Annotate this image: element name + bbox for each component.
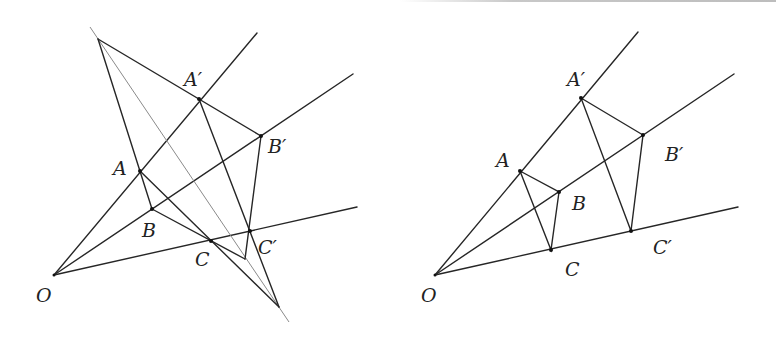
point-a-prime <box>579 96 583 100</box>
label-b: B <box>571 192 586 214</box>
ray-oa <box>435 32 638 275</box>
desargues-diagrams: O A B C A′ B′ C′ O A B C A′ B′ C′ <box>0 0 776 342</box>
left-figure: O A B C A′ B′ C′ <box>36 27 357 322</box>
label-o: O <box>421 284 437 306</box>
point-b-prime <box>259 134 263 138</box>
triangle-a2b2c2 <box>581 98 643 231</box>
label-b-prime: B′ <box>664 143 684 165</box>
line-a2c2-extended <box>199 99 279 307</box>
point-a-prime <box>197 97 201 101</box>
label-a: A <box>111 157 127 179</box>
right-figure: O A B C A′ B′ C′ <box>421 32 738 306</box>
line-ab-extended <box>98 39 152 209</box>
label-c-prime: C′ <box>653 236 673 258</box>
label-a: A <box>494 149 510 171</box>
label-b: B <box>141 219 156 241</box>
label-b-prime: B′ <box>267 135 287 157</box>
ray-ob <box>435 74 734 275</box>
ray-oc <box>435 207 738 275</box>
point-o <box>53 274 56 277</box>
point-c <box>549 248 553 252</box>
point-c <box>209 239 213 243</box>
point-c-prime <box>248 229 252 233</box>
point-b <box>150 207 154 211</box>
point-c-prime <box>629 229 633 233</box>
point-a <box>138 169 142 173</box>
label-o: O <box>36 284 52 306</box>
label-a-prime: A′ <box>182 68 203 90</box>
point-b <box>557 190 561 194</box>
point-b-prime <box>641 133 645 137</box>
triangle-abc <box>520 171 559 250</box>
label-a-prime: A′ <box>565 68 586 90</box>
label-c: C <box>195 248 210 270</box>
line-a2b2-extended <box>98 39 261 136</box>
label-c-prime: C′ <box>258 236 278 258</box>
label-c: C <box>565 258 580 280</box>
ray-ob <box>54 74 353 275</box>
point-o <box>434 274 437 277</box>
point-a <box>518 169 522 173</box>
